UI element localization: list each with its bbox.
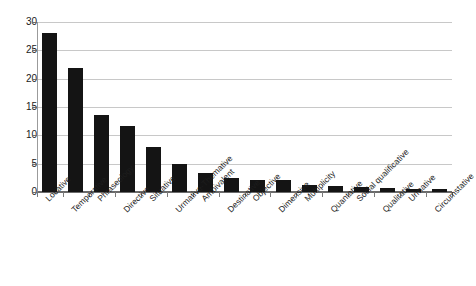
bar <box>68 68 83 192</box>
bar <box>42 33 57 192</box>
x-axis-labels: LocativeTemporativePhraseologyDirectiveS… <box>37 197 466 286</box>
y-axis: 051015202530 <box>0 22 37 193</box>
